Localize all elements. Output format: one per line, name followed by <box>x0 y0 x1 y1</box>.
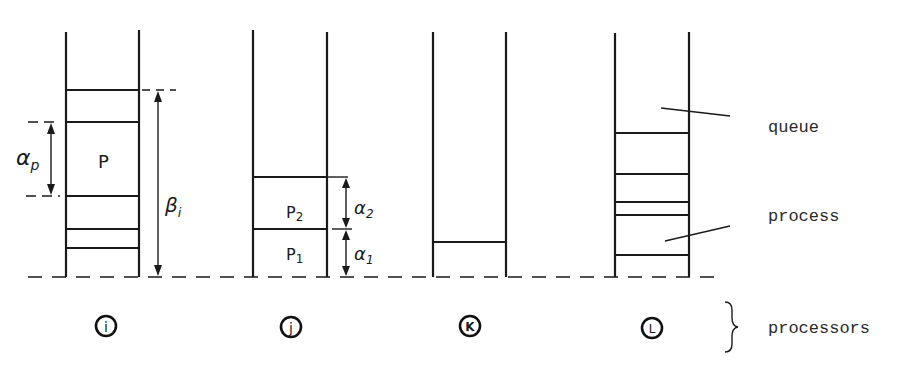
process-p1-label: P1 <box>286 245 303 266</box>
arrow-up-icon <box>47 123 55 134</box>
process-p2-label: P2 <box>286 203 303 224</box>
alpha-p-label: αp <box>16 145 40 173</box>
arrow-up-icon <box>154 91 162 102</box>
queue-diagram: P αp βi i P2 P1 α2 α1 j <box>0 0 916 385</box>
processor-j-label: j <box>288 320 293 336</box>
arrow-up-icon <box>342 230 350 240</box>
process-legend-label: process <box>768 207 839 226</box>
processor-l-label: L <box>649 322 656 336</box>
queue-pointer-line <box>661 108 730 116</box>
processor-k-label: K <box>465 320 475 334</box>
alpha-1-label: α1 <box>354 243 374 267</box>
processor-i-label: i <box>104 319 108 335</box>
alpha-2-label: α2 <box>354 197 374 221</box>
processors-legend-label: processors <box>768 319 870 338</box>
arrow-down-icon <box>154 265 162 276</box>
queue-legend-label: queue <box>768 118 819 137</box>
process-p-label: P <box>98 151 109 172</box>
column-j: P2 P1 α2 α1 j <box>253 30 374 337</box>
column-l: L <box>615 32 689 338</box>
arrow-down-icon <box>342 266 350 276</box>
beta-i-label: βi <box>164 193 182 220</box>
column-k: K <box>433 32 506 336</box>
arrow-up-icon <box>342 178 350 188</box>
process-pointer-line <box>665 226 730 241</box>
processors-brace <box>725 302 738 352</box>
arrow-down-icon <box>342 218 350 228</box>
arrow-down-icon <box>47 184 55 195</box>
column-i: P αp βi i <box>16 30 182 336</box>
